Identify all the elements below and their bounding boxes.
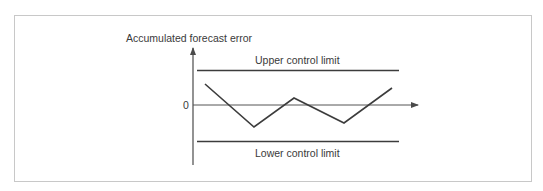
zero-tick-label: 0 [183, 99, 189, 111]
y-axis-title: Accumulated forecast error [126, 32, 253, 44]
lower-control-limit-label: Lower control limit [255, 147, 340, 159]
upper-control-limit-label: Upper control limit [255, 54, 340, 66]
control-chart: Accumulated forecast error 0 Upper contr… [0, 0, 543, 191]
